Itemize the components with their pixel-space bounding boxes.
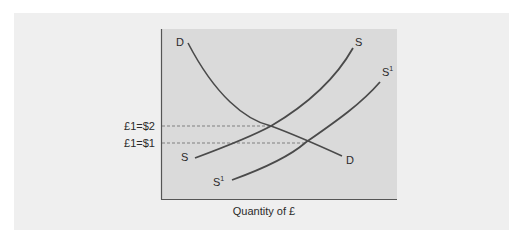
label-d-top: D bbox=[176, 36, 184, 48]
price-label-high: £1=$2 bbox=[124, 120, 155, 132]
x-axis-label: Quantity of £ bbox=[233, 205, 295, 217]
label-s-low: S bbox=[181, 151, 188, 163]
plot-area bbox=[161, 29, 397, 199]
price-label-low: £1=$1 bbox=[124, 137, 155, 149]
label-d-bottom: D bbox=[346, 154, 354, 166]
label-s-high: S bbox=[355, 36, 362, 48]
supply-demand-diagram: D D S S S1 S1 £1=$2 £1=$1 Quantity of £ bbox=[0, 0, 525, 246]
